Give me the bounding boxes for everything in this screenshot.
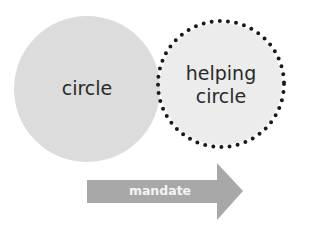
helping-circle-shape bbox=[160, 23, 282, 145]
helping-circle-label-line2: circle bbox=[176, 85, 266, 107]
helping-circle-label-line1: helping bbox=[176, 62, 266, 84]
circle-label: circle bbox=[44, 77, 130, 99]
mandate-label: mandate bbox=[110, 183, 210, 198]
